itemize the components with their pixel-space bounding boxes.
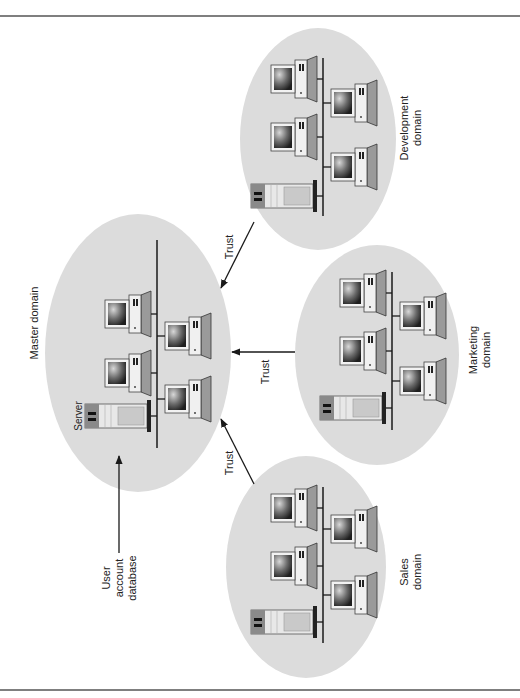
trust-label-sales: Trust bbox=[223, 451, 235, 476]
marketing-domain-label-line2: domain bbox=[480, 332, 492, 368]
user-account-database-label-line1: User bbox=[100, 566, 112, 590]
master-domain-label: Master domain bbox=[28, 287, 40, 360]
development-server-icon bbox=[251, 180, 317, 212]
sales-domain-label-line2: domain bbox=[411, 554, 423, 590]
sales-domain-label-line1: Sales bbox=[398, 558, 410, 586]
sales-server-icon bbox=[251, 606, 317, 638]
development-domain-label-line1: Development bbox=[398, 96, 410, 161]
master-server-label: Server bbox=[73, 401, 84, 431]
user-account-database-label-line3: database bbox=[126, 555, 138, 600]
user-account-database-label-line2: account bbox=[113, 559, 125, 598]
development-domain-label-line2: domain bbox=[411, 110, 423, 146]
marketing-server-icon bbox=[320, 392, 386, 424]
trust-label-marketing: Trust bbox=[259, 360, 271, 385]
master-server-icon bbox=[85, 400, 151, 432]
trust-label-development: Trust bbox=[223, 235, 235, 260]
trust-diagram: Trust Trust Trust Master domain Server D… bbox=[0, 0, 520, 698]
marketing-domain-label-line1: Marketing bbox=[467, 326, 479, 374]
development-domain-ellipse bbox=[240, 28, 396, 250]
